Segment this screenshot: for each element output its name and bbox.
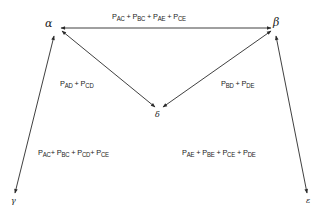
probability-term: PBD [221,79,234,88]
probability-term: PBC [133,12,146,21]
label-beta-delta: PBD + PDE [221,79,254,89]
label-alpha-gamma: PAC+ PBC + PCD+ PCE [38,148,109,158]
probability-term: PAE [182,148,194,157]
node-epsilon: ε [306,196,310,205]
probability-term: PCE [96,148,109,157]
label-alpha-beta: PAC + PBC + PAE + PCE [112,12,186,22]
probability-term: PCD [81,79,94,88]
edge-beta-delta [163,31,271,107]
edge-epsilon-beta [276,36,307,193]
edge-gamma-alpha [15,36,54,193]
probability-term: PDE [243,148,256,157]
probability-term: PBC [57,148,70,157]
edge-alpha-delta [62,31,155,107]
probability-term: PAC [38,148,51,157]
label-beta-epsilon: PAE + PBE + PCE + PDE [182,148,256,158]
probability-term: PAE [153,12,165,21]
node-beta: β [273,16,279,29]
node-alpha: α [45,17,52,30]
node-gamma: γ [11,196,16,205]
probability-term: PCE [222,148,235,157]
probability-term: PAD [60,79,73,88]
label-alpha-delta: PAD + PCD [60,79,94,89]
diagram-edges [0,0,316,218]
probability-term: PDE [242,79,255,88]
node-delta: δ [155,110,160,119]
probability-term: PCD [77,148,90,157]
probability-term: PAC [112,12,125,21]
probability-term: PBE [202,148,214,157]
probability-term: PCE [173,12,186,21]
